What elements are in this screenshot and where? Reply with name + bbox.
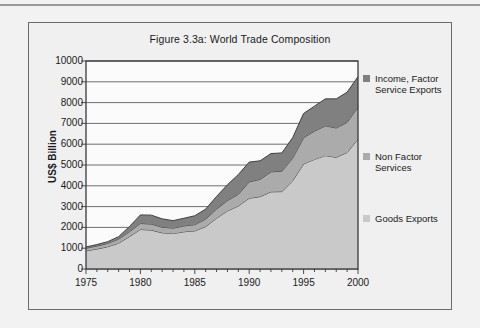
legend-item: Goods Exports	[363, 213, 438, 224]
legend-swatch-icon	[363, 215, 370, 222]
legend-item: Non Factor Services	[363, 151, 422, 173]
legend-swatch-icon	[363, 153, 370, 160]
x-tick-label: 1985	[173, 277, 217, 288]
legend-label: Goods Exports	[375, 213, 438, 224]
chart-area: Figure 3.3a: World Trade Composition US$…	[29, 23, 451, 309]
x-tick-label: 1990	[227, 277, 271, 288]
x-tick-label: 1980	[118, 277, 162, 288]
top-rule	[0, 4, 480, 6]
x-tick-label: 1995	[282, 277, 326, 288]
figure-frame: Figure 3.3a: World Trade Composition US$…	[28, 22, 452, 310]
legend-item: Income, Factor Service Exports	[363, 73, 442, 95]
x-tick-label: 1975	[64, 277, 108, 288]
legend-label: Non Factor Services	[375, 151, 422, 173]
legend-swatch-icon	[363, 75, 370, 82]
legend-label: Income, Factor Service Exports	[375, 73, 442, 95]
x-tick-label: 2000	[336, 277, 380, 288]
